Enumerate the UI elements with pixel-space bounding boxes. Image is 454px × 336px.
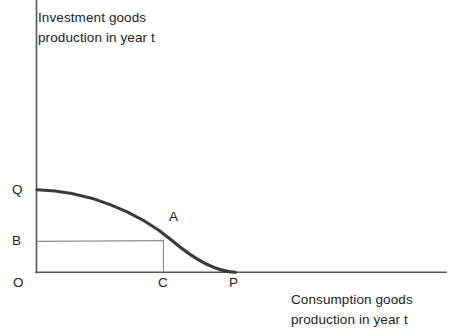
label-a-production-point: A [169, 209, 178, 224]
label-p-intercept: P [229, 275, 238, 290]
production-possibility-frontier-curve [37, 190, 236, 272]
x-axis-title-line-2: production in year t [291, 312, 408, 327]
x-axis-title-line-1: Consumption goods [291, 292, 413, 307]
label-q-intercept: Q [12, 182, 23, 197]
label-o-origin: O [13, 275, 24, 290]
investment-level-guide-line [37, 241, 164, 242]
y-axis-title-line-2: production in year t [38, 30, 155, 45]
y-axis-title-line-1: Investment goods [38, 10, 146, 25]
x-axis-title: Consumption goodsproduction in year t [291, 290, 413, 330]
label-c-consumption-level: C [158, 275, 168, 290]
y-axis-title: Investment goodsproduction in year t [38, 8, 155, 48]
plot-area [0, 0, 454, 336]
ppf-diagram: Investment goodsproduction in year t Con… [0, 0, 454, 336]
label-b-investment-level: B [12, 233, 21, 248]
